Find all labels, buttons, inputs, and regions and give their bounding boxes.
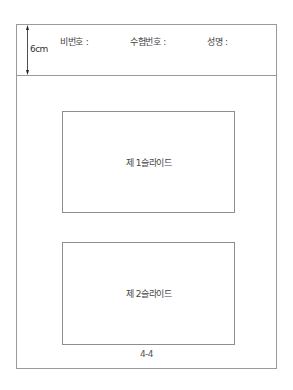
label-bibeonho: 비번호 : [60,35,88,48]
slide-2-label: 제 2슬라이드 [126,287,171,300]
page-number: 4-4 [0,349,293,359]
label-exam-number: 수험번호 : [130,35,166,48]
dimension-label: 6cm [30,44,48,54]
header-divider [16,75,277,76]
slide-1-label: 제 1슬라이드 [126,156,171,169]
slide-1-box: 제 1슬라이드 [62,111,235,213]
dimension-arrow-icon [26,25,29,75]
label-name: 성명 : [207,35,228,48]
slide-2-box: 제 2슬라이드 [62,242,235,345]
